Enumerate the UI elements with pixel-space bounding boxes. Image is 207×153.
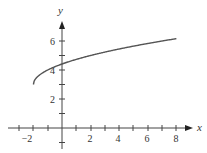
y-tick-label: 6 xyxy=(50,36,55,47)
y-tick-label: 2 xyxy=(50,94,55,105)
y-axis-arrow-icon xyxy=(59,21,65,29)
y-axis-label: y xyxy=(57,4,63,16)
x-tick-label: 2 xyxy=(88,133,93,144)
x-tick-label: 4 xyxy=(116,133,121,144)
x-axis xyxy=(8,125,190,131)
x-tick-label: 6 xyxy=(145,133,150,144)
x-tick-label: −2 xyxy=(22,133,33,144)
y-tick-label: 4 xyxy=(50,65,55,76)
y-axis xyxy=(59,27,65,149)
function-graph: −2 2 4 6 8 2 4 6 x y xyxy=(0,0,207,153)
x-tick-label: 8 xyxy=(174,133,179,144)
x-axis-label: x xyxy=(196,121,202,133)
x-axis-arrow-icon xyxy=(185,125,193,131)
